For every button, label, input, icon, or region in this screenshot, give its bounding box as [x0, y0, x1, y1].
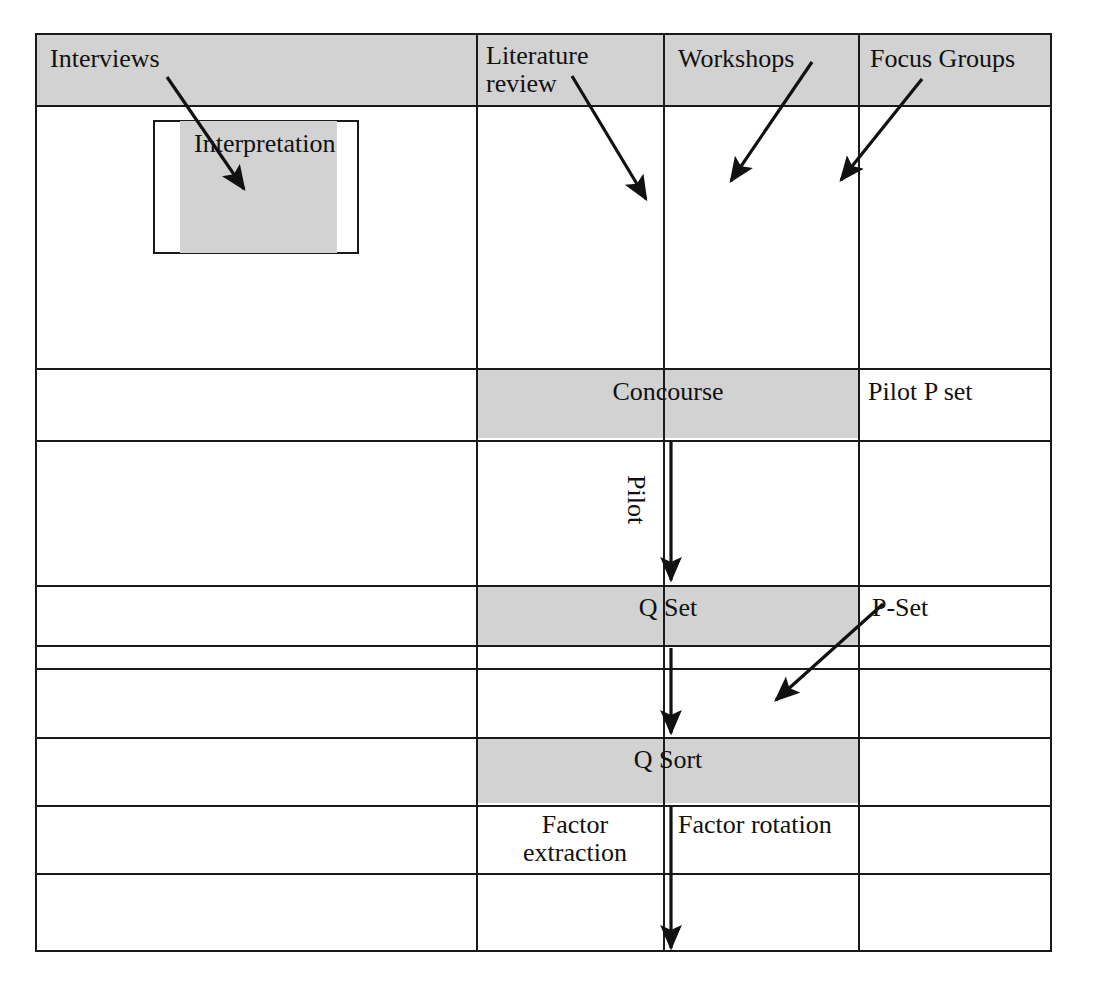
- column-divider-1: [476, 33, 478, 952]
- row-divider-9: [35, 873, 1052, 875]
- diagram-canvas: Interviews Literature review Workshops F…: [0, 0, 1097, 990]
- row-divider-6: [35, 668, 1052, 670]
- node-factor-rotation-label: Factor rotation: [678, 811, 832, 839]
- node-p-set-label: P-Set: [872, 594, 928, 622]
- node-q-set-label: Q Set: [478, 594, 858, 622]
- node-interpretation-label: Interpretation: [194, 130, 336, 158]
- row-divider-5: [35, 645, 1052, 647]
- column-divider-2: [663, 33, 665, 952]
- header-interviews: Interviews: [50, 45, 160, 73]
- node-q-sort-label: Q Sort: [478, 746, 858, 774]
- header-literature-review: Literature review: [486, 42, 589, 98]
- row-divider-4: [35, 585, 1052, 587]
- column-divider-3: [858, 33, 860, 952]
- row-divider-2: [35, 368, 1052, 370]
- row-divider-7: [35, 737, 1052, 739]
- edge-pilot-label: Pilot: [622, 475, 650, 524]
- node-factor-extraction-label: Factor extraction: [490, 811, 660, 867]
- row-divider-8: [35, 805, 1052, 807]
- node-concourse-label: Concourse: [478, 378, 858, 406]
- header-workshops: Workshops: [678, 45, 794, 73]
- header-focus-groups: Focus Groups: [870, 45, 1015, 73]
- row-divider-1: [35, 105, 1052, 107]
- node-pilot-p-set-label: Pilot P set: [868, 378, 973, 406]
- row-divider-3: [35, 440, 1052, 442]
